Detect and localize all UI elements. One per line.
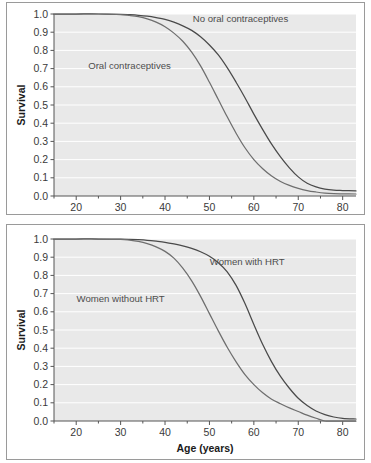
x-tick-label-50: 50 — [204, 426, 216, 438]
y-tick-label-1-0: 1.0 — [33, 8, 48, 20]
x-tick-label-50: 50 — [204, 201, 216, 213]
y-tick-label-0-7: 0.7 — [33, 62, 48, 74]
y-tick-label-0-8: 0.8 — [33, 44, 48, 56]
panel-hrt: 0.00.10.20.30.40.50.60.70.80.91.02030405… — [6, 224, 365, 460]
x-tick-label-20: 20 — [70, 426, 82, 438]
y-tick-label-0-6: 0.6 — [33, 305, 48, 317]
y-tick-label-0-0: 0.0 — [33, 415, 48, 427]
y-tick-label-1-0: 1.0 — [33, 233, 48, 245]
y-tick-label-0-3: 0.3 — [33, 360, 48, 372]
y-axis-title: Survival — [15, 84, 27, 125]
y-tick-label-0-3: 0.3 — [33, 135, 48, 147]
y-tick-label-0-0: 0.0 — [33, 190, 48, 202]
x-tick-label-20: 20 — [70, 201, 82, 213]
y-tick-label-0-6: 0.6 — [33, 80, 48, 92]
chart-oral-contraceptives: 0.00.10.20.30.40.50.60.70.80.91.02030405… — [7, 3, 364, 214]
x-axis-title: Age (years) — [176, 442, 233, 454]
y-tick-label-0-2: 0.2 — [33, 378, 48, 390]
figure-survival-curves: 0.00.10.20.30.40.50.60.70.80.91.02030405… — [0, 0, 371, 463]
y-tick-label-0-9: 0.9 — [33, 251, 48, 263]
x-tick-label-60: 60 — [248, 201, 260, 213]
x-tick-label-40: 40 — [159, 201, 171, 213]
x-tick-label-80: 80 — [337, 426, 349, 438]
x-tick-label-60: 60 — [248, 426, 260, 438]
x-tick-label-30: 30 — [115, 426, 127, 438]
y-tick-label-0-7: 0.7 — [33, 287, 48, 299]
x-tick-label-80: 80 — [337, 201, 349, 213]
chart-hrt: 0.00.10.20.30.40.50.60.70.80.91.02030405… — [7, 225, 364, 459]
y-tick-label-0-1: 0.1 — [33, 396, 48, 408]
y-tick-label-0-9: 0.9 — [33, 26, 48, 38]
y-tick-label-0-4: 0.4 — [33, 342, 48, 354]
x-tick-label-30: 30 — [115, 201, 127, 213]
y-tick-label-0-4: 0.4 — [33, 117, 48, 129]
x-tick-label-70: 70 — [292, 201, 304, 213]
curve-label-women-with-hrt: Women with HRT — [210, 256, 285, 267]
curve-label-no-oral-contraceptives: No oral contraceptives — [193, 13, 289, 24]
y-tick-label-0-8: 0.8 — [33, 269, 48, 281]
x-tick-label-40: 40 — [159, 426, 171, 438]
y-tick-label-0-5: 0.5 — [33, 99, 48, 111]
y-tick-label-0-1: 0.1 — [33, 171, 48, 183]
panel-oral-contraceptives: 0.00.10.20.30.40.50.60.70.80.91.02030405… — [6, 2, 365, 215]
y-axis-title: Survival — [15, 309, 27, 350]
curve-label-women-without-hrt: Women without HRT — [77, 293, 165, 304]
y-tick-label-0-2: 0.2 — [33, 153, 48, 165]
curve-label-oral-contraceptives: Oral contraceptives — [88, 60, 171, 71]
y-tick-label-0-5: 0.5 — [33, 324, 48, 336]
x-tick-label-70: 70 — [292, 426, 304, 438]
